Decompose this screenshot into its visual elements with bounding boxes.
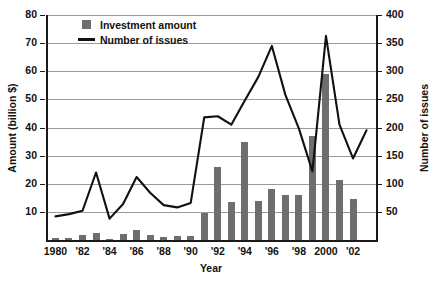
y-axis-line	[46, 15, 48, 240]
y2-axis-tick-label: 400	[386, 8, 404, 20]
chart-container: Investment amount Number of issues Amoun…	[0, 0, 435, 290]
y2-axis-tick-mark	[377, 71, 382, 72]
y2-axis-tick-mark	[377, 15, 382, 16]
y2-axis-tick-mark	[377, 43, 382, 44]
y-axis-tick-label: 30	[0, 149, 37, 161]
legend-item-investment-amount: Investment amount	[78, 18, 196, 31]
legend-label-1: Number of issues	[100, 34, 188, 46]
legend-label-0: Investment amount	[100, 19, 196, 31]
y2-axis-line	[376, 15, 378, 240]
y-axis-tick-label: 50	[0, 92, 37, 104]
y-axis-tick-mark	[40, 71, 45, 72]
y-axis-tick-mark	[40, 212, 45, 213]
y2-axis-tick-label: 250	[386, 92, 404, 104]
y2-axis-title: Number of issues	[418, 83, 430, 171]
y-axis-tick-label: 40	[0, 121, 37, 133]
legend-line-icon	[78, 38, 100, 41]
y-axis-tick-label: 70	[0, 36, 37, 48]
x-axis-title: Year	[171, 262, 251, 274]
legend-swatch-icon	[78, 20, 100, 29]
y2-axis-tick-label: 200	[386, 121, 404, 133]
y2-axis-tick-label: 150	[386, 149, 404, 161]
y-axis-tick-label: 10	[0, 205, 37, 217]
y2-axis-tick-mark	[377, 128, 382, 129]
line-series	[46, 15, 376, 240]
y2-axis-tick-mark	[377, 156, 382, 157]
y-axis-tick-mark	[40, 43, 45, 44]
y2-axis-tick-label: 300	[386, 64, 404, 76]
y-axis-tick-mark	[40, 99, 45, 100]
y2-axis-tick-mark	[377, 184, 382, 185]
y2-axis-tick-mark	[377, 212, 382, 213]
y-axis-tick-mark	[40, 156, 45, 157]
y-axis-tick-mark	[40, 128, 45, 129]
chart-legend: Investment amount Number of issues	[78, 18, 196, 48]
y2-axis-tick-label: 50	[386, 205, 398, 217]
y-axis-tick-label: 80	[0, 8, 37, 20]
y2-axis-tick-mark	[377, 99, 382, 100]
legend-item-number-of-issues: Number of issues	[78, 33, 196, 46]
y2-axis-tick-label: 100	[386, 177, 404, 189]
y-axis-tick-mark	[40, 184, 45, 185]
y2-axis-tick-label: 350	[386, 36, 404, 48]
plot-area	[46, 15, 376, 240]
x-axis-line	[46, 240, 378, 242]
x-axis-tick-label: '02	[333, 245, 373, 257]
y-axis-tick-label: 60	[0, 64, 37, 76]
y-axis-tick-label: 20	[0, 177, 37, 189]
y-axis-tick-mark	[40, 15, 45, 16]
